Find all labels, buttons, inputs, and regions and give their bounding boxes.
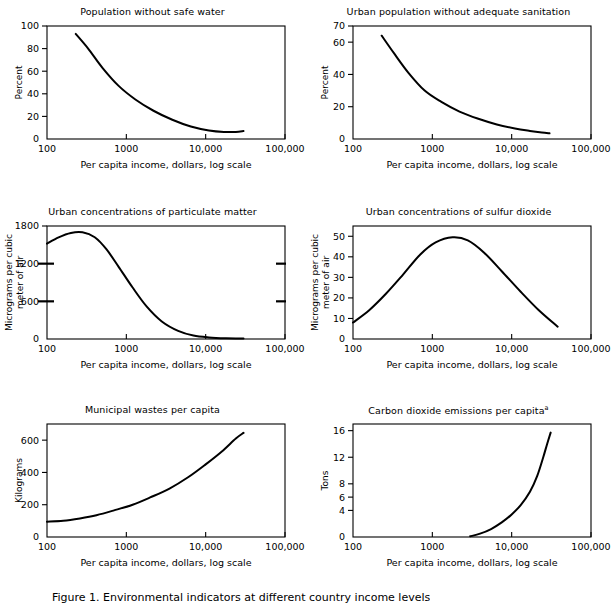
svg-text:100,000: 100,000 (571, 143, 610, 154)
svg-text:20: 20 (333, 292, 345, 303)
svg-text:70: 70 (333, 20, 345, 31)
svg-text:60: 60 (27, 66, 39, 77)
svg-text:40: 40 (333, 69, 345, 80)
data-curve (353, 237, 558, 326)
svg-text:12: 12 (333, 452, 345, 463)
chart-panel-municipal-wastes: Municipal wastes per capita 020040060010… (0, 398, 305, 598)
svg-text:6: 6 (339, 492, 345, 503)
chart-svg-sanitation: 020406070100100010,000100,000Per capita … (306, 0, 611, 200)
svg-text:40: 40 (333, 251, 345, 262)
svg-text:1000: 1000 (420, 541, 444, 552)
y-axis-label: Kilograms (14, 458, 24, 503)
chart-svg-municipal-wastes: 0200400600100100010,000100,000Per capita… (0, 398, 305, 598)
svg-text:100,000: 100,000 (265, 343, 304, 354)
y-axis-label: meter of air (321, 256, 331, 309)
y-axis-label: Percent (320, 65, 330, 99)
data-curve (382, 36, 550, 134)
svg-text:10: 10 (333, 313, 345, 324)
chart-panel-sulfur-dioxide: Urban concentrations of sulfur dioxide 0… (306, 200, 611, 400)
svg-text:1000: 1000 (420, 343, 444, 354)
y-axis-label: Percent (14, 65, 24, 99)
svg-text:20: 20 (27, 111, 39, 122)
chart-panel-co2: Carbon dioxide emissions per capitaa 046… (306, 398, 611, 598)
svg-text:10,000: 10,000 (495, 541, 528, 552)
y-axis-label: Tons (320, 470, 330, 491)
data-curve (47, 433, 244, 522)
svg-text:600: 600 (21, 435, 39, 446)
svg-text:1000: 1000 (114, 143, 138, 154)
svg-text:40: 40 (27, 88, 39, 99)
svg-text:100,000: 100,000 (571, 343, 610, 354)
svg-text:10,000: 10,000 (189, 343, 222, 354)
figure-caption: Figure 1. Environmental indicators at di… (52, 591, 430, 603)
svg-text:4: 4 (339, 505, 345, 516)
svg-text:8: 8 (339, 478, 345, 489)
svg-text:1000: 1000 (420, 143, 444, 154)
data-curve (470, 433, 550, 537)
chart-panel-particulate: Urban concentrations of particulate matt… (0, 200, 305, 400)
svg-text:1000: 1000 (114, 343, 138, 354)
y-axis-label: meter of air (15, 256, 25, 309)
x-axis-label: Per capita income, dollars, log scale (80, 359, 251, 370)
x-axis-label: Per capita income, dollars, log scale (386, 159, 557, 170)
svg-text:100: 100 (38, 143, 56, 154)
chart-svg-particulate: 060012001800100100010,000100,000Per capi… (0, 200, 305, 400)
svg-text:10,000: 10,000 (495, 143, 528, 154)
x-axis-label: Per capita income, dollars, log scale (80, 159, 251, 170)
svg-text:100,000: 100,000 (571, 541, 610, 552)
chart-panel-sanitation: Urban population without adequate sanita… (306, 0, 611, 200)
chart-svg-sulfur-dioxide: 01020304050100100010,000100,000Per capit… (306, 200, 611, 400)
svg-text:100: 100 (38, 343, 56, 354)
svg-text:20: 20 (333, 101, 345, 112)
svg-text:60: 60 (333, 37, 345, 48)
svg-text:30: 30 (333, 272, 345, 283)
svg-text:100,000: 100,000 (265, 541, 304, 552)
svg-text:100: 100 (38, 541, 56, 552)
chart-svg-co2: 04681216100100010,000100,000Per capita i… (306, 398, 611, 598)
svg-text:100: 100 (21, 20, 39, 31)
y-axis-label: Micrograms per cubic (4, 234, 14, 331)
data-curve (76, 34, 244, 132)
svg-text:10,000: 10,000 (495, 343, 528, 354)
svg-text:80: 80 (27, 43, 39, 54)
svg-text:1000: 1000 (114, 541, 138, 552)
svg-text:50: 50 (333, 231, 345, 242)
x-axis-label: Per capita income, dollars, log scale (80, 557, 251, 568)
chart-panel-safe-water: Population without safe water 0204060801… (0, 0, 305, 200)
svg-text:10,000: 10,000 (189, 541, 222, 552)
svg-text:100: 100 (344, 343, 362, 354)
chart-svg-safe-water: 020406080100100100010,000100,000Per capi… (0, 0, 305, 200)
y-axis-label: Micrograms per cubic (310, 234, 320, 331)
x-axis-label: Per capita income, dollars, log scale (386, 557, 557, 568)
svg-text:10,000: 10,000 (189, 143, 222, 154)
svg-text:100: 100 (344, 143, 362, 154)
figure-panel-grid: Population without safe water 0204060801… (0, 0, 611, 603)
data-curve (47, 232, 244, 339)
svg-text:1800: 1800 (15, 220, 39, 231)
svg-text:100: 100 (344, 541, 362, 552)
svg-text:100,000: 100,000 (265, 143, 304, 154)
x-axis-label: Per capita income, dollars, log scale (386, 359, 557, 370)
svg-text:16: 16 (333, 425, 345, 436)
